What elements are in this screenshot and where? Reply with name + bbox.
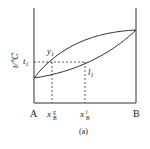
vapor-composition-label: x g B bbox=[46, 109, 57, 121]
liquid-curve-label: l1 bbox=[88, 67, 94, 78]
component-a-label: A bbox=[30, 108, 38, 119]
svg-text:x: x bbox=[79, 109, 84, 119]
svg-text:x: x bbox=[46, 109, 51, 119]
component-b-label: B bbox=[133, 108, 140, 119]
figure-caption: (a) bbox=[79, 127, 88, 136]
svg-text:B: B bbox=[86, 115, 90, 121]
svg-text:B: B bbox=[53, 115, 57, 121]
t1-label: t1 bbox=[23, 56, 29, 67]
vapor-curve-label: y1 bbox=[46, 46, 54, 57]
phase-diagram: t/℃ t1 y1 l1 A B x g B x l B (a) bbox=[0, 0, 150, 149]
y-axis-label: t/℃ bbox=[10, 52, 20, 68]
liquid-composition-label: x l B bbox=[79, 109, 90, 121]
